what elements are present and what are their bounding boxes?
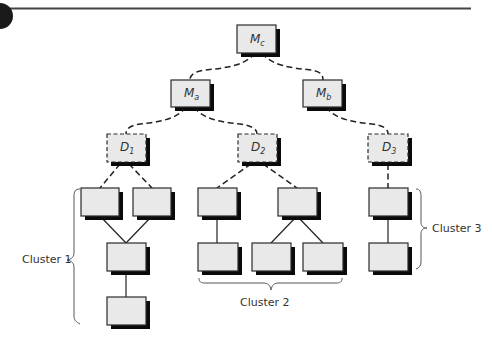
cluster-2-brace: Cluster 2 (199, 278, 342, 309)
dashed-edges (100, 53, 388, 188)
edge-mb-d3 (326, 107, 388, 134)
node-mb: Mb (303, 80, 346, 111)
module-box (252, 243, 295, 275)
hierarchy-diagram: Mc Ma Mb D1 D2 D3 (0, 0, 492, 341)
cluster-2-label: Cluster 2 (240, 296, 290, 309)
module-box (369, 188, 412, 220)
node-d2: D2 (238, 134, 281, 166)
module-box (369, 243, 412, 275)
edge-ma-d1 (126, 107, 186, 134)
node-d1: D1 (107, 134, 150, 166)
edge-ma-d2 (194, 107, 257, 134)
module-box (133, 188, 175, 220)
node-ma: Ma (171, 80, 214, 111)
module-box (198, 243, 242, 275)
cluster-1-brace: Cluster 1 (22, 189, 80, 324)
edge-mc-ma (190, 53, 255, 80)
module-box (107, 243, 150, 275)
edge-d2-c2a (217, 164, 251, 188)
cluster-3-label: Cluster 3 (432, 222, 482, 235)
module-box (303, 243, 347, 275)
edge-mc-mb (262, 53, 323, 80)
cluster-1-label: Cluster 1 (22, 253, 72, 266)
edge-d1-c1a (100, 164, 120, 188)
node-mc: Mc (237, 25, 280, 57)
module-box (198, 188, 241, 220)
corner-badge (0, 3, 13, 29)
edge-d1-c1b (129, 164, 152, 188)
cluster-3-brace: Cluster 3 (416, 189, 482, 269)
edge-d2-c2b (263, 164, 297, 188)
node-d3: D3 (368, 134, 412, 166)
module-box (107, 297, 150, 329)
module-box (81, 188, 123, 220)
module-box (278, 188, 321, 220)
